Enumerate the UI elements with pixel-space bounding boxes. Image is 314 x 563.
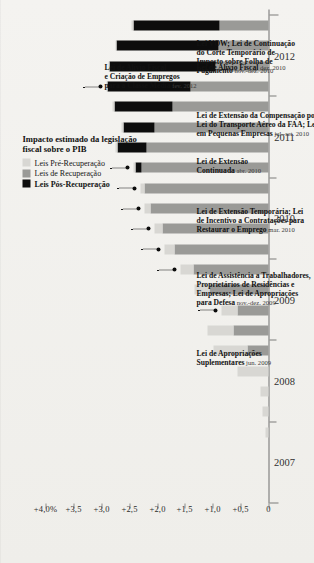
chart-stage: +4,0%+3,5+3,0+2,5+2,0+1,5+1,0+0,50200720… <box>0 0 314 563</box>
value-axis-tick-label: +3,0 <box>93 503 109 513</box>
year-axis-divider <box>269 177 276 178</box>
annotation-alivio-fiscal-classe-media: Lei de Alívio Fiscale Criação de Emprego… <box>104 63 196 90</box>
legend-swatch <box>22 179 30 187</box>
value-axis-tick-label: +3,5 <box>65 503 81 513</box>
value-axis-tick-label: +2,5 <box>121 503 137 513</box>
annotation-title-line: Suplementares jun. 2009 <box>196 358 271 367</box>
bar-segment-pos-recuperacao <box>123 122 154 132</box>
bar-segment-pre-recuperacao <box>180 264 192 274</box>
bar-segment-pre-recuperacao <box>164 244 174 254</box>
bar-segment-pos-recuperacao <box>133 20 219 30</box>
annotation-date: jul.-set. 2010 <box>272 129 308 136</box>
legend-label: Leis de Recuperação <box>34 168 101 177</box>
bar-segment-pre-recuperacao <box>112 102 113 112</box>
fiscal-impact-stacked-bar-chart: +4,0%+3,5+3,0+2,5+2,0+1,5+1,0+0,50200720… <box>0 0 314 563</box>
annotation-title-line: Pagamento nov.-dez. 2010 <box>196 66 294 75</box>
bar-segment-recuperacao <box>146 142 268 152</box>
year-axis-divider <box>269 421 276 422</box>
annotation-title-line: Continuada abr. 2010 <box>196 166 261 175</box>
chart-legend: Impacto estimado da legislaçãofiscal sob… <box>22 133 136 188</box>
year-axis-divider <box>269 339 276 340</box>
value-axis-tick-label: +4,0% <box>33 503 57 513</box>
annotation-extensao-continuada: Lei de ExtensãoContinuada abr. 2010 <box>196 157 261 175</box>
value-axis-tick-label: +0,5 <box>232 503 248 513</box>
annotation-date: fev. 2012 <box>170 81 196 88</box>
legend-label: Leis Pré-Recuperação <box>34 158 104 167</box>
bar-segment-recuperacao <box>144 183 268 193</box>
value-axis-tick-label: +1,5 <box>176 503 192 513</box>
year-axis-divider <box>269 95 276 96</box>
annotation-title-line: Restaurar o Emprego mar. 2010 <box>196 225 304 234</box>
annotation-leader-line <box>197 309 215 310</box>
bar-segment-recuperacao <box>190 81 268 91</box>
annotation-leader-line <box>82 86 100 87</box>
annotation-title-line: em Pequenas Empresas jul.-set. 2010 <box>196 129 314 138</box>
annotation-title-line: para Defesa nov.-dez. 2009 <box>196 298 310 307</box>
legend-swatch <box>22 158 30 166</box>
legend-item: Leis de Recuperação <box>22 168 136 177</box>
annotation-apropriacoes-suplementares: Lei de ApropriaçõesSuplementares jun. 20… <box>196 349 271 367</box>
legend-item: Leis Pós-Recuperação <box>22 179 136 188</box>
annotation-leader-line <box>130 228 148 229</box>
annotation-compensacao-desemprego: Lei de Extensão da Compensação por Desem… <box>196 111 314 138</box>
annotation-extensao-temporaria: Lei de Extensão Temporária; Leide Incent… <box>196 207 304 234</box>
annotation-leader-line <box>156 269 174 270</box>
bar-segment-pre-recuperacao <box>131 20 132 30</box>
value-axis-tick-label: 0 <box>266 503 270 513</box>
bar-segment-recuperacao <box>233 325 268 335</box>
year-axis-divider <box>269 258 276 259</box>
legend-swatch <box>22 169 30 177</box>
annotation-date: nov.-dez. 2009 <box>235 298 276 305</box>
value-axis-tick-label: +2,0 <box>148 503 164 513</box>
annotation-date: jun. 2009 <box>244 358 271 365</box>
bar-segment-pre-recuperacao <box>260 386 268 396</box>
legend-label: Leis Pós-Recuperação <box>34 179 109 188</box>
annotation-lei-vow: Lei VOW; Lei de Continuaçãodo Corte Temp… <box>196 39 294 75</box>
bar-segment-recuperacao <box>174 244 268 254</box>
bar-segment-pos-recuperacao <box>114 102 173 112</box>
bar-segment-pre-recuperacao <box>265 427 268 437</box>
bar-segment-pre-recuperacao <box>154 224 162 234</box>
legend-item: Leis Pré-Recuperação <box>22 158 136 167</box>
legend-title: Impacto estimado da legislaçãofiscal sob… <box>22 133 136 154</box>
year-axis-end-tick <box>269 502 278 503</box>
bar-segment-pre-recuperacao <box>121 122 123 132</box>
bar-segment-pre-recuperacao <box>115 41 116 51</box>
bar-segment-pre-recuperacao <box>207 325 234 335</box>
bar-segment-pre-recuperacao <box>262 407 268 417</box>
year-axis-end-tick <box>269 14 278 15</box>
bar-segment-pre-recuperacao <box>144 203 150 213</box>
annotation-date: nov.-dez. 2010 <box>232 66 273 73</box>
bar-segment-pre-recuperacao <box>140 183 144 193</box>
annotation-assistencia-trabalhadores: Lei de Assistência a Trabalhadores,Propr… <box>196 271 310 307</box>
year-axis-label: 2008 <box>274 376 295 387</box>
plot-area: +4,0%+3,5+3,0+2,5+2,0+1,5+1,0+0,50200720… <box>0 0 314 563</box>
annotation-leader-line <box>140 248 158 249</box>
annotation-title-line: para a Classe Média fev. 2012 <box>104 81 196 90</box>
value-axis-tick-label: +1,0 <box>204 503 220 513</box>
bar-segment-recuperacao <box>219 20 268 30</box>
annotation-leader-line <box>120 208 138 209</box>
year-axis-label: 2007 <box>274 457 295 468</box>
annotation-date: abr. 2010 <box>234 166 260 173</box>
annotation-date: mar. 2010 <box>266 225 294 232</box>
